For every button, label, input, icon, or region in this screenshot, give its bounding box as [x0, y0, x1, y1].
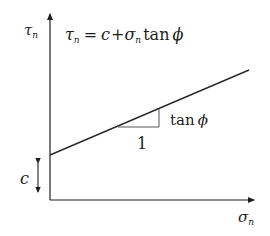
y-axis-label: τn	[24, 21, 38, 40]
failure-equation: τn=c+σntanϕ	[65, 25, 183, 45]
failure-envelope-line	[50, 70, 249, 155]
slope-label: tanϕ	[170, 111, 208, 129]
failure-envelope-diagram: τn σn τn=c+σntanϕ tanϕ 1 c	[0, 0, 270, 236]
intercept-label: c	[20, 169, 29, 188]
x-axis-label: σn	[238, 208, 254, 227]
run-label: 1	[137, 134, 147, 153]
